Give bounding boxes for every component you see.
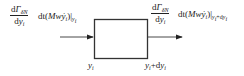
outflow-fraction: dΓδN dyi: [151, 3, 169, 25]
outflow-denominator: dyi: [155, 14, 165, 24]
inflow-numerator: dΓδN: [10, 5, 28, 16]
inflow-denominator: dyi: [14, 16, 24, 26]
flux-diagram: dΓδN dyi dt(Mwẏi)|yi dΓδN dyi dt(Mwẏi)|y…: [0, 0, 244, 76]
outflow-numerator: dΓδN: [151, 3, 169, 14]
control-volume-box: [95, 20, 148, 59]
inflow-expression: dt(Mwẏi)|yi: [38, 12, 76, 21]
position-label-right: yi+dyi: [145, 61, 166, 70]
position-label-left: yi: [88, 61, 94, 70]
outflow-expression: dt(Mwẏi)|yi+dyi: [178, 10, 227, 19]
inflow-fraction: dΓδN dyi: [10, 5, 28, 27]
